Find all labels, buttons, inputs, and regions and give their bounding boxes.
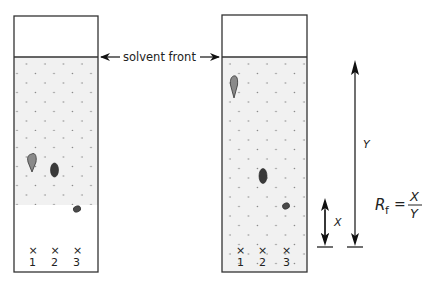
lane-label-2: 2 bbox=[51, 256, 58, 269]
rf-formula: R f = X Y bbox=[375, 189, 422, 221]
after-separation-plate: × × × 1 2 3 bbox=[222, 15, 307, 272]
spot-2-icon bbox=[51, 163, 59, 177]
formula-equals: = bbox=[394, 196, 406, 212]
lane-label-3: 3 bbox=[73, 256, 80, 269]
solvent-front-label-group: solvent front bbox=[101, 50, 219, 64]
before-separation-plate: × × × 1 2 3 bbox=[14, 16, 98, 272]
y-distance-arrow: Y bbox=[347, 60, 371, 247]
lane-label-1: 1 bbox=[29, 256, 36, 269]
x-label: X bbox=[333, 216, 342, 229]
y-label: Y bbox=[363, 138, 371, 151]
formula-denominator: Y bbox=[410, 206, 419, 221]
spot-3-icon bbox=[72, 205, 81, 213]
formula-numerator: X bbox=[409, 189, 420, 204]
spot-2-icon bbox=[259, 169, 267, 184]
formula-r: R bbox=[375, 196, 385, 214]
chromatography-diagram: × × × 1 2 3 solvent front × × × 1 2 3 X bbox=[0, 0, 434, 283]
solvent-front-label: solvent front bbox=[123, 50, 196, 64]
lane-label-2: 2 bbox=[259, 256, 266, 269]
lane-label-3: 3 bbox=[283, 256, 290, 269]
x-distance-arrow: X bbox=[317, 198, 342, 247]
formula-subscript: f bbox=[385, 204, 390, 217]
lane-label-1: 1 bbox=[237, 256, 244, 269]
